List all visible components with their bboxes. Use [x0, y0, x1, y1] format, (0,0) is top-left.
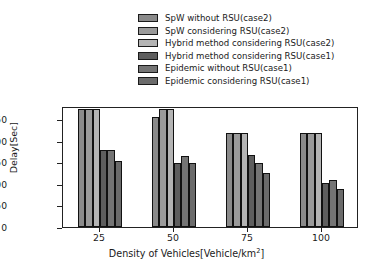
bar: [255, 163, 262, 227]
x-tick-mark: [99, 228, 100, 232]
bar: [189, 163, 196, 227]
y-tick-mark: [57, 228, 62, 229]
bar: [322, 183, 329, 227]
bar: [300, 133, 307, 227]
bar: [329, 180, 336, 227]
legend-item: Hybrid method considering RSU(case2): [138, 37, 363, 50]
bar: [337, 189, 344, 227]
plot-area: [62, 107, 358, 228]
legend-swatch-icon: [138, 52, 158, 60]
legend-item-label: Epidemic considering RSU(case1): [165, 77, 309, 86]
legend-item: SpW considering RSU(case2): [138, 25, 363, 38]
x-axis-label-text: Density of Vehicles[Vehicle/km: [109, 248, 256, 259]
bar: [233, 133, 240, 227]
y-tick-label: 750: [0, 159, 7, 168]
y-tick-label: 0: [1, 223, 7, 232]
y-tick-label: 500: [0, 180, 7, 189]
legend-item-label: SpW without RSU(case2): [165, 14, 272, 23]
x-tick-label: 75: [241, 233, 253, 242]
legend-swatch-icon: [138, 27, 158, 35]
bar: [107, 150, 114, 227]
chart-legend: SpW without RSU(case2)SpW considering RS…: [138, 12, 363, 88]
bar: [241, 133, 248, 227]
bar: [93, 109, 100, 227]
legend-swatch-icon: [138, 39, 158, 47]
bar: [152, 117, 159, 227]
legend-item: Epidemic without RSU(case1): [138, 62, 363, 75]
bars-layer: [63, 108, 357, 227]
x-tick-label: 50: [167, 233, 179, 242]
x-axis-label: Density of Vehicles[Vehicle/km2]: [0, 248, 373, 259]
legend-swatch-icon: [138, 65, 158, 73]
y-axis-label: Delay[Sec]: [9, 98, 18, 198]
x-tick-mark: [247, 228, 248, 232]
bar: [248, 155, 255, 227]
y-tick-label: 250: [0, 202, 7, 211]
bar: [159, 109, 166, 227]
x-tick-mark: [321, 228, 322, 232]
legend-item-label: Hybrid method considering RSU(case1): [165, 52, 334, 61]
legend-item-label: SpW considering RSU(case2): [165, 27, 289, 36]
legend-item: Hybrid method considering RSU(case1): [138, 50, 363, 63]
bar: [100, 150, 107, 227]
bar: [181, 156, 188, 227]
bar: [115, 161, 122, 227]
x-tick-label: 100: [312, 233, 330, 242]
bar: [307, 133, 314, 227]
legend-item: Epidemic considering RSU(case1): [138, 75, 363, 88]
legend-swatch-icon: [138, 77, 158, 85]
bar: [78, 109, 85, 227]
legend-item: SpW without RSU(case2): [138, 12, 363, 25]
bar: [174, 163, 181, 227]
x-axis-label-tail: ]: [260, 248, 264, 259]
bar: [226, 133, 233, 227]
y-tick-label: 1000: [0, 137, 7, 146]
y-tick-label: 1250: [0, 115, 7, 124]
x-tick-label: 25: [93, 233, 105, 242]
bar: [315, 133, 322, 227]
bar: [167, 109, 174, 227]
bar: [85, 109, 92, 227]
legend-item-label: Epidemic without RSU(case1): [165, 64, 292, 73]
bar-chart-figure: SpW without RSU(case2)SpW considering RS…: [0, 0, 373, 270]
bar: [263, 173, 270, 227]
legend-item-label: Hybrid method considering RSU(case2): [165, 39, 334, 48]
legend-swatch-icon: [138, 14, 158, 22]
x-tick-mark: [173, 228, 174, 232]
